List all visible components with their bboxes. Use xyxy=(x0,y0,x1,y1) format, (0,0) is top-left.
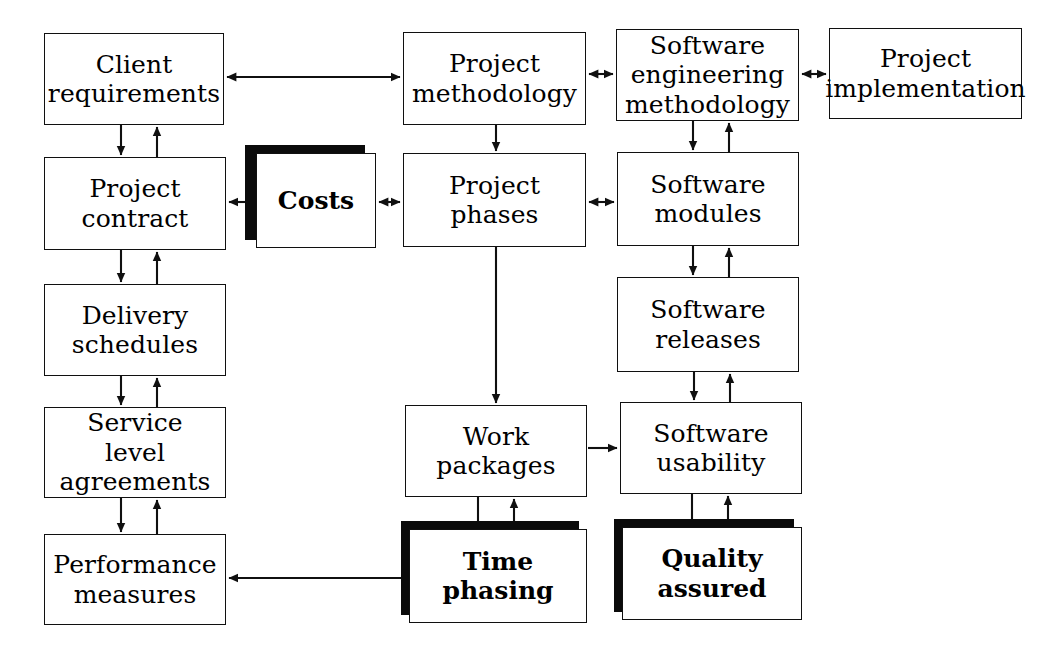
node-delivery-schedules[interactable]: Deliveryschedules xyxy=(44,284,226,376)
node-label: Projectmethodology xyxy=(408,49,581,108)
node-project-methodology[interactable]: Projectmethodology xyxy=(403,32,586,125)
node-label: Softwaremodules xyxy=(646,170,769,229)
node-label: Timephasing xyxy=(438,547,557,606)
node-label: Costs xyxy=(274,186,358,216)
node-project-implementation[interactable]: Projectimplementation xyxy=(829,28,1022,119)
node-label: Softwarereleases xyxy=(646,295,769,354)
node-label: Servicelevelagreements xyxy=(56,408,215,497)
node-label: Deliveryschedules xyxy=(68,301,202,360)
node-label: Performancemeasures xyxy=(49,550,220,609)
node-software-usability[interactable]: Softwareusability xyxy=(620,402,802,494)
diagram-canvas: Clientrequirements Projectmethodology So… xyxy=(0,0,1054,656)
node-project-phases[interactable]: Projectphases xyxy=(403,153,586,247)
node-label: Projectphases xyxy=(445,171,544,230)
node-time-phasing[interactable]: Timephasing xyxy=(409,529,587,623)
node-performance-measures[interactable]: Performancemeasures xyxy=(44,534,226,625)
node-software-modules[interactable]: Softwaremodules xyxy=(617,152,799,246)
node-label: Projectimplementation xyxy=(821,44,1030,103)
node-label: Softwareengineeringmethodology xyxy=(621,31,794,120)
node-label: Qualityassured xyxy=(653,544,770,603)
node-client-requirements[interactable]: Clientrequirements xyxy=(44,33,224,125)
node-work-packages[interactable]: Workpackages xyxy=(405,405,587,497)
node-quality-assured[interactable]: Qualityassured xyxy=(622,527,802,620)
node-label: Projectcontract xyxy=(78,174,193,233)
node-label: Clientrequirements xyxy=(44,50,224,109)
node-software-releases[interactable]: Softwarereleases xyxy=(617,277,799,372)
node-project-contract[interactable]: Projectcontract xyxy=(44,157,226,250)
node-service-level-agreements[interactable]: Servicelevelagreements xyxy=(44,407,226,498)
node-label: Workpackages xyxy=(432,422,559,481)
node-label: Softwareusability xyxy=(649,419,772,478)
node-software-engineering-methodology[interactable]: Softwareengineeringmethodology xyxy=(616,29,799,121)
node-costs[interactable]: Costs xyxy=(256,153,376,248)
